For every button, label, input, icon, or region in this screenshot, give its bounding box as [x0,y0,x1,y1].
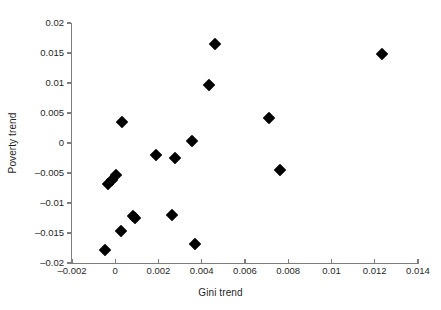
x-tick-mark [417,259,418,263]
y-tick-label: –0.01 [40,198,64,208]
x-tick-mark [71,259,72,263]
x-tick-mark [115,259,116,263]
x-tick-label: 0.004 [190,266,214,276]
y-tick-label: 0.01 [46,78,65,88]
x-tick-label: 0 [113,266,118,276]
x-tick-mark [288,259,289,263]
data-point-marker [273,164,286,177]
y-tick-mark [67,112,71,113]
x-tick-label: 0.008 [276,266,300,276]
data-point-marker [169,152,182,165]
x-tick-label: –0.002 [57,266,86,276]
x-tick-label: 0.006 [233,266,257,276]
x-tick-label: 0.002 [147,266,171,276]
y-axis-title: Poverty trend [7,113,18,174]
y-tick-mark [67,52,71,53]
y-tick-mark [67,22,71,23]
data-point-marker [188,238,201,251]
y-tick-label: 0.02 [46,18,65,28]
data-point-marker [262,112,275,125]
y-axis-line [71,23,72,264]
y-tick-mark [67,142,71,143]
data-point-marker [375,48,388,61]
data-point-marker [208,38,221,51]
x-tick-label: 0.01 [322,266,341,276]
x-tick-mark [374,259,375,263]
data-point-marker [166,209,179,222]
y-tick-label: 0.015 [40,48,64,58]
x-tick-mark [158,259,159,263]
x-tick-label: 0.012 [363,266,387,276]
data-point-marker [150,149,163,162]
y-tick-mark [67,82,71,83]
y-tick-label: –0.005 [35,168,64,178]
y-tick-label: 0 [59,138,64,148]
x-tick-mark [244,259,245,263]
data-point-marker [116,116,129,129]
x-axis-title: Gini trend [0,287,441,298]
data-point-marker [114,225,127,238]
y-tick-mark [67,232,71,233]
data-point-marker [202,79,215,92]
scatter-plot-figure: 0.020.0150.010.0050–0.005–0.01–0.015–0.0… [0,0,441,310]
x-tick-mark [201,259,202,263]
y-tick-label: 0.005 [40,108,64,118]
x-tick-label: 0.014 [406,266,430,276]
y-tick-label: –0.015 [35,228,64,238]
x-tick-mark [331,259,332,263]
data-point-marker [98,244,111,257]
y-tick-mark [67,202,71,203]
data-point-marker [186,135,199,148]
y-tick-mark [67,172,71,173]
